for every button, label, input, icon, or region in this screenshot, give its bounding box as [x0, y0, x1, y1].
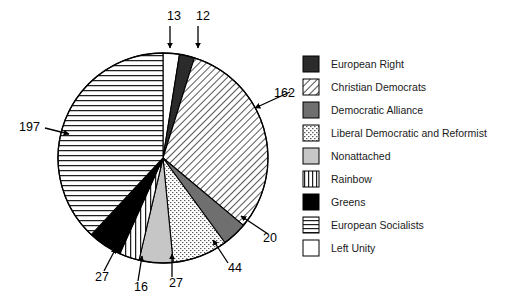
legend-label-democratic-alliance: Democratic Alliance [331, 104, 423, 116]
legend-item-european-right[interactable]: European Right [303, 56, 404, 72]
legend-label-greens: Greens [331, 196, 365, 208]
callout-value-nonattached: 27 [169, 276, 183, 290]
callout-value-left-unity: 13 [167, 9, 181, 23]
legend-swatch-liberal-democratic-and-reformist [303, 125, 319, 141]
legend-item-christian-democrats[interactable]: Christian Democrats [303, 79, 426, 95]
legend-item-european-socialists[interactable]: European Socialists [303, 217, 424, 233]
legend-swatch-european-socialists [303, 217, 319, 233]
legend-swatch-left-unity [303, 240, 319, 256]
callout-value-european-right: 12 [196, 9, 210, 23]
legend-swatch-rainbow [303, 171, 319, 187]
legend-label-left-unity: Left Unity [331, 242, 376, 254]
legend-label-rainbow: Rainbow [331, 173, 372, 185]
legend-swatch-greens [303, 194, 319, 210]
callout-arrow-greens [104, 248, 116, 271]
callout-value-rainbow: 16 [134, 280, 148, 294]
legend-label-christian-democrats: Christian Democrats [331, 81, 426, 93]
pie-slices [58, 53, 268, 263]
legend-label-nonattached: Nonattached [331, 150, 391, 162]
legend-item-rainbow[interactable]: Rainbow [303, 171, 372, 187]
callout-value-european-socialists: 197 [19, 120, 40, 134]
legend-item-greens[interactable]: Greens [303, 194, 365, 210]
legend-swatch-democratic-alliance [303, 102, 319, 118]
callout-value-greens: 27 [95, 270, 109, 284]
legend-swatch-european-right [303, 56, 319, 72]
callout-value-christian-democrats: 162 [274, 86, 295, 100]
legend-item-democratic-alliance[interactable]: Democratic Alliance [303, 102, 423, 118]
legend-label-european-socialists: European Socialists [331, 219, 424, 231]
legend: European RightChristian DemocratsDemocra… [303, 56, 487, 256]
legend-item-left-unity[interactable]: Left Unity [303, 240, 376, 256]
legend-label-liberal-democratic-and-reformist: Liberal Democratic and Reformist [331, 127, 487, 139]
pie-chart-figure: 12162204427162719713 European RightChris… [0, 0, 505, 307]
legend-item-liberal-democratic-and-reformist[interactable]: Liberal Democratic and Reformist [303, 125, 487, 141]
legend-swatch-nonattached [303, 148, 319, 164]
callout-value-democratic-alliance: 20 [263, 231, 277, 245]
callout-value-liberal-democratic-and-reformist: 44 [228, 261, 242, 275]
chart-svg: 12162204427162719713 European RightChris… [0, 0, 505, 307]
legend-item-nonattached[interactable]: Nonattached [303, 148, 391, 164]
legend-label-european-right: European Right [331, 58, 404, 70]
legend-swatch-christian-democrats [303, 79, 319, 95]
